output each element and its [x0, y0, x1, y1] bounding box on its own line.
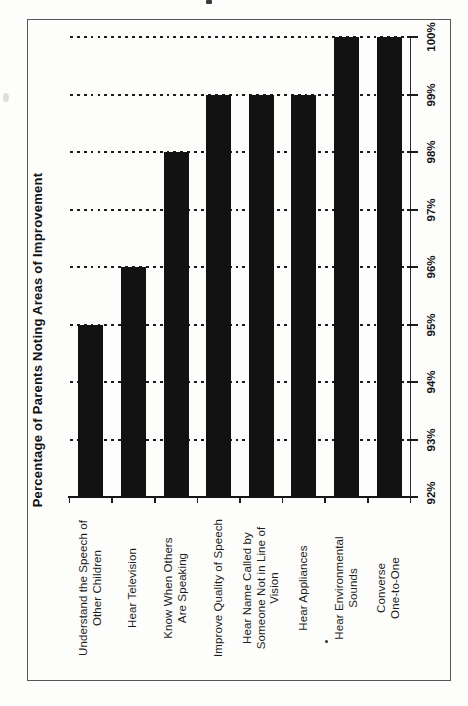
baseline-tick-3 [197, 497, 199, 503]
value-axis-label-92pct: 92% [425, 481, 437, 504]
cropped-text-fragment [206, 0, 212, 4]
value-axis-tick-98pct [407, 151, 419, 153]
baseline-tick-5 [282, 497, 284, 503]
value-axis-label-95pct: 95% [425, 313, 437, 336]
value-axis-label-93pct: 93% [425, 428, 437, 451]
bar-4 [206, 95, 231, 498]
value-axis-tick-96pct [407, 266, 419, 268]
category-label-7: Hear Environmental Sounds [333, 527, 360, 648]
bar-3 [164, 152, 189, 497]
baseline-tick-2 [154, 497, 156, 503]
baseline-tick-6 [324, 497, 326, 503]
value-axis-label-94pct: 94% [425, 370, 437, 393]
scan-speck [325, 640, 328, 643]
value-axis-tick-99pct [407, 94, 419, 96]
bar-1 [78, 325, 103, 498]
bar-5 [249, 95, 274, 498]
category-label-6: Hear Appliances [297, 545, 311, 630]
chart-title: Percentage of Parents Noting Areas of Im… [30, 173, 45, 508]
value-axis-tick-95pct [407, 324, 419, 326]
value-axis-label-97pct: 97% [425, 198, 437, 221]
baseline-tick-1 [111, 497, 113, 503]
bar-8 [377, 37, 402, 497]
category-label-1: Understand the Speech of Other Children [77, 520, 104, 656]
value-axis-tick-100pct [407, 36, 419, 38]
scanned-page: Percentage of Parents Noting Areas of Im… [0, 0, 468, 706]
category-label-3: Know When Others Are Speaking [163, 537, 190, 638]
bar-6 [291, 95, 316, 498]
value-axis-tick-93pct [407, 439, 419, 441]
category-label-4: Improve Quality of Speech [212, 519, 226, 657]
baseline-tick-7 [367, 497, 369, 503]
scan-smudge [3, 93, 9, 102]
value-axis-label-96pct: 96% [425, 255, 437, 278]
value-axis-label-98pct: 98% [425, 140, 437, 163]
baseline-tick-0 [69, 497, 71, 503]
category-label-5: Hear Name Called by Someone Not in Line … [241, 527, 282, 649]
bar-7 [334, 37, 359, 497]
category-label-2: Hear Television [127, 548, 141, 628]
value-axis-label-99pct: 99% [425, 83, 437, 106]
bar-2 [121, 267, 146, 497]
baseline-tick-8 [410, 497, 412, 503]
value-axis-label-100pct: 100% [425, 22, 437, 51]
category-label-8: Converse One-to-One [376, 549, 403, 628]
value-axis-tick-92pct [407, 496, 419, 498]
value-axis-tick-97pct [407, 209, 419, 211]
value-axis-tick-94pct [407, 381, 419, 383]
baseline-tick-4 [239, 497, 241, 503]
